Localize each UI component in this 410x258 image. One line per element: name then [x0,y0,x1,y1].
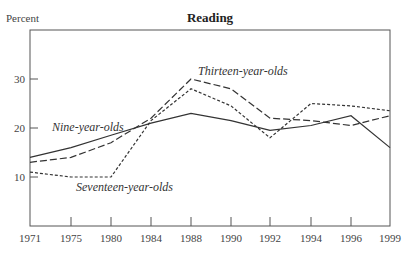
label-thirteen-year-olds: Thirteen-year-olds [198,64,288,78]
y-tick-label: 10 [14,171,26,183]
x-tick-label: 1984 [140,232,163,244]
x-tick-label: 1990 [220,232,243,244]
x-axis-ticks: 1971197519801984198819901992199419961999 [19,217,402,244]
x-tick-label: 1996 [340,232,363,244]
chart-title: Reading [187,10,234,25]
y-tick-label: 20 [14,122,26,134]
y-tick-label: 30 [14,73,26,85]
x-tick-label: 1992 [259,232,281,244]
x-tick-label: 1999 [379,232,402,244]
y-axis-ticks: 102030 [14,73,38,183]
label-nine-year-olds: Nine-year-olds [51,120,124,134]
line-chart: Percent Reading 102030 19711975198019841… [0,0,410,258]
x-tick-label: 1975 [60,232,83,244]
x-tick-label: 1988 [180,232,203,244]
y-axis-label: Percent [6,12,39,24]
x-tick-label: 1980 [100,232,123,244]
x-tick-label: 1994 [300,232,323,244]
label-seventeen-year-olds: Seventeen-year-olds [76,180,173,194]
x-tick-label: 1971 [19,232,41,244]
